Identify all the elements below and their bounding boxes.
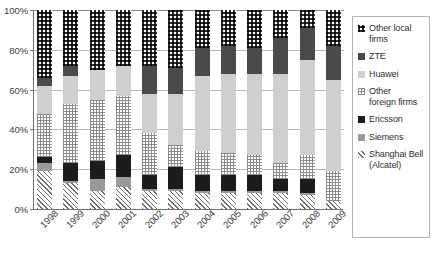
legend-label: Other local firms: [369, 23, 411, 44]
bar-segment-other-foreign-firms[interactable]: [247, 155, 262, 175]
bar-segment-shanghai-bell-alcatel[interactable]: [90, 191, 105, 209]
bar-segment-huawei[interactable]: [300, 60, 315, 156]
bar-segment-ericsson[interactable]: [300, 179, 315, 193]
bar-segment-zte[interactable]: [37, 78, 52, 86]
bar-segment-huawei[interactable]: [142, 94, 157, 134]
bar-segment-zte[interactable]: [247, 48, 262, 74]
legend-item-ericsson[interactable]: Ericsson: [358, 114, 429, 125]
bar-segment-shanghai-bell-alcatel[interactable]: [168, 191, 183, 209]
legend-swatch-icon: [358, 151, 365, 158]
bar-segment-ericsson[interactable]: [63, 163, 78, 181]
bar-segment-other-local-firms[interactable]: [195, 10, 210, 48]
bar-column-2001[interactable]: [116, 10, 131, 209]
bar-segment-other-foreign-firms[interactable]: [63, 104, 78, 164]
legend-label: Siemens: [369, 132, 403, 143]
bar-segment-other-local-firms[interactable]: [300, 10, 315, 28]
bar-segment-other-local-firms[interactable]: [168, 10, 183, 68]
bar-column-2000[interactable]: [90, 10, 105, 209]
legend-item-zte[interactable]: ZTE: [358, 51, 429, 62]
legend-item-siemens[interactable]: Siemens: [358, 132, 429, 143]
legend-label: Shanghai Bell (Alcatel): [369, 149, 423, 170]
bar-segment-other-foreign-firms[interactable]: [273, 163, 288, 179]
bar-segment-shanghai-bell-alcatel[interactable]: [37, 171, 52, 209]
bar-segment-ericsson[interactable]: [221, 175, 236, 191]
bar-segment-huawei[interactable]: [168, 94, 183, 146]
bar-column-2006[interactable]: [247, 10, 262, 209]
bar-segment-zte[interactable]: [142, 66, 157, 94]
axis-area: [34, 10, 344, 209]
bar-segment-huawei[interactable]: [37, 86, 52, 114]
bar-segment-other-local-firms[interactable]: [326, 10, 341, 46]
legend-item-shanghai-bell-alcatel[interactable]: Shanghai Bell (Alcatel): [358, 149, 429, 170]
bar-column-2007[interactable]: [273, 10, 288, 209]
bar-segment-huawei[interactable]: [63, 76, 78, 104]
x-tick-label: 2007: [274, 208, 296, 230]
bar-segment-ericsson[interactable]: [142, 175, 157, 189]
bar-segment-other-foreign-firms[interactable]: [116, 96, 131, 156]
bar-segment-huawei[interactable]: [273, 74, 288, 164]
bar-column-2005[interactable]: [221, 10, 236, 209]
bar-segment-shanghai-bell-alcatel[interactable]: [63, 183, 78, 209]
bar-segment-shanghai-bell-alcatel[interactable]: [195, 193, 210, 209]
bar-segment-other-local-firms[interactable]: [273, 10, 288, 38]
bar-segment-zte[interactable]: [326, 46, 341, 80]
legend-label: ZTE: [369, 51, 386, 62]
bar-segment-ericsson[interactable]: [247, 175, 262, 191]
bar-column-2004[interactable]: [195, 10, 210, 209]
bar-segment-ericsson[interactable]: [273, 179, 288, 191]
bar-segment-other-local-firms[interactable]: [37, 10, 52, 78]
bar-segment-other-foreign-firms[interactable]: [168, 145, 183, 167]
x-tick-slot: 2005: [221, 212, 236, 262]
bar-segment-other-foreign-firms[interactable]: [37, 114, 52, 158]
bar-column-2009[interactable]: [326, 10, 341, 209]
bar-segment-shanghai-bell-alcatel[interactable]: [300, 195, 315, 209]
bar-segment-ericsson[interactable]: [90, 161, 105, 179]
bar-segment-huawei[interactable]: [90, 70, 105, 100]
bar-segment-other-foreign-firms[interactable]: [221, 153, 236, 175]
bar-segment-shanghai-bell-alcatel[interactable]: [221, 193, 236, 209]
bar-segment-siemens[interactable]: [116, 177, 131, 187]
legend-item-other-foreign-firms[interactable]: Other foreign firms: [358, 86, 429, 107]
bar-segment-ericsson[interactable]: [168, 167, 183, 189]
bar-segment-huawei[interactable]: [247, 74, 262, 156]
bar-segment-other-foreign-firms[interactable]: [195, 151, 210, 175]
bar-segment-shanghai-bell-alcatel[interactable]: [142, 191, 157, 209]
legend-item-huawei[interactable]: Huawei: [358, 69, 429, 80]
bar-segment-other-local-firms[interactable]: [247, 10, 262, 48]
bar-segment-shanghai-bell-alcatel[interactable]: [247, 193, 262, 209]
bar-segment-zte[interactable]: [168, 68, 183, 94]
bar-segment-ericsson[interactable]: [195, 175, 210, 191]
bar-segment-other-foreign-firms[interactable]: [142, 133, 157, 175]
bar-segment-other-local-firms[interactable]: [90, 10, 105, 70]
bar-column-2003[interactable]: [168, 10, 183, 209]
bar-column-2002[interactable]: [142, 10, 157, 209]
bar-segment-zte[interactable]: [300, 28, 315, 60]
bar-segment-other-local-firms[interactable]: [221, 10, 236, 46]
bar-segment-siemens[interactable]: [90, 179, 105, 191]
legend-swatch-icon: [358, 88, 365, 95]
bar-segment-zte[interactable]: [221, 46, 236, 74]
bar-segment-huawei[interactable]: [116, 66, 131, 96]
bar-segment-zte[interactable]: [63, 66, 78, 76]
bar-segment-other-local-firms[interactable]: [63, 10, 78, 66]
bar-segment-huawei[interactable]: [326, 80, 341, 172]
bar-segment-other-foreign-firms[interactable]: [90, 100, 105, 162]
bar-column-2008[interactable]: [300, 10, 315, 209]
bar-segment-siemens[interactable]: [37, 163, 52, 171]
bar-segment-zte[interactable]: [195, 48, 210, 76]
bar-segment-ericsson[interactable]: [116, 155, 131, 177]
bar-segment-shanghai-bell-alcatel[interactable]: [273, 193, 288, 209]
bar-segment-other-local-firms[interactable]: [142, 10, 157, 66]
bar-segment-other-local-firms[interactable]: [116, 10, 131, 66]
legend-item-other-local-firms[interactable]: Other local firms: [358, 23, 429, 44]
bar-column-1999[interactable]: [63, 10, 78, 209]
bar-column-1998[interactable]: [37, 10, 52, 209]
bar-segment-other-foreign-firms[interactable]: [326, 171, 341, 201]
bar-segment-huawei[interactable]: [195, 76, 210, 152]
bar-segment-other-foreign-firms[interactable]: [300, 155, 315, 179]
bar-segment-zte[interactable]: [273, 38, 288, 74]
x-tick-label: 2009: [326, 208, 348, 230]
x-tick-label: 1999: [63, 208, 85, 230]
bar-segment-shanghai-bell-alcatel[interactable]: [116, 187, 131, 209]
bar-segment-huawei[interactable]: [221, 74, 236, 154]
